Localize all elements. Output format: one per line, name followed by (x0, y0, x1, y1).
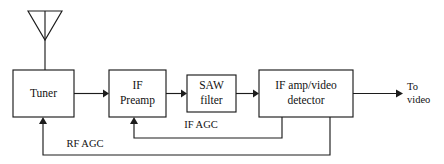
output-video-label-line2: video (407, 94, 430, 105)
block-if-preamp-label-line1: IF (132, 79, 142, 91)
block-saw-filter-label-line1: SAW (199, 79, 224, 91)
block-tuner-label: Tuner (30, 87, 57, 99)
connector-saw-to-ifamp (236, 90, 259, 98)
block-if-amp-video-detector[interactable]: IF amp/video detector (259, 70, 353, 117)
diagram-canvas: Tuner IF Preamp SAW filter IF amp/video … (0, 0, 444, 164)
output-video-label-line1: To (407, 81, 418, 92)
block-saw-filter-label-line2: filter (200, 94, 223, 106)
connector-preamp-to-saw (166, 90, 187, 98)
connector-tuner-to-preamp (74, 90, 109, 98)
block-if-preamp[interactable]: IF Preamp (109, 70, 166, 117)
antenna-icon (28, 11, 62, 70)
connector-ifamp-to-video-out (353, 90, 403, 98)
block-if-amp-label-line2: detector (287, 94, 324, 106)
block-if-amp-label-line1: IF amp/video (275, 79, 337, 92)
signal-label-if-agc: IF AGC (184, 119, 218, 130)
block-tuner[interactable]: Tuner (13, 70, 74, 117)
block-diagram: Tuner IF Preamp SAW filter IF amp/video … (0, 0, 444, 164)
block-if-preamp-label-line2: Preamp (120, 94, 155, 107)
output-video-label: To video (407, 81, 430, 105)
signal-label-rf-agc: RF AGC (66, 138, 103, 149)
block-saw-filter[interactable]: SAW filter (187, 75, 236, 112)
